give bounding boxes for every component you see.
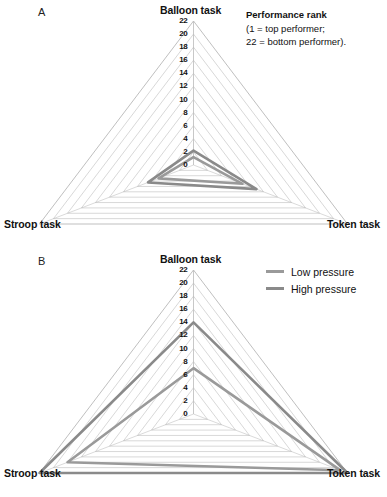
tick-label-20: 20 (172, 278, 188, 287)
annotation-title: Performance rank (246, 8, 346, 22)
tick-label-16: 16 (172, 304, 188, 313)
legend-label-low-pressure: Low pressure (291, 266, 354, 278)
tick-label-22: 22 (172, 16, 188, 25)
panel-b: B Balloon task Stroop task Token task 22… (0, 249, 387, 497)
axis-label-token-task-b: Token task (327, 467, 380, 479)
tick-label-0: 0 (172, 409, 188, 418)
tick-label-4: 4 (172, 134, 188, 143)
axis-label-token-task-a: Token task (327, 218, 380, 230)
axis-label-stroop-task-b: Stroop task (4, 467, 61, 479)
performance-rank-annotation: Performance rank (1 = top performer; 22 … (246, 8, 346, 49)
axis-label-balloon-task-a: Balloon task (160, 4, 221, 16)
tick-label-16: 16 (172, 55, 188, 64)
tick-label-0: 0 (172, 160, 188, 169)
tick-label-12: 12 (172, 330, 188, 339)
tick-label-14: 14 (172, 68, 188, 77)
tick-label-10: 10 (172, 95, 188, 104)
tick-label-14: 14 (172, 317, 188, 326)
tick-label-8: 8 (172, 357, 188, 366)
tick-label-2: 2 (172, 147, 188, 156)
tick-label-6: 6 (172, 370, 188, 379)
legend-swatch-high-pressure (266, 287, 284, 290)
tick-label-22: 22 (172, 265, 188, 274)
panel-a: A Balloon task Stroop task Token task 22… (0, 0, 387, 248)
tick-label-18: 18 (172, 291, 188, 300)
axis-label-stroop-task-a: Stroop task (4, 218, 61, 230)
tick-label-8: 8 (172, 108, 188, 117)
annotation-line-1: (1 = top performer; (246, 22, 346, 36)
tick-label-6: 6 (172, 121, 188, 130)
tick-label-18: 18 (172, 42, 188, 51)
legend-item-low-pressure: Low pressure (266, 263, 356, 280)
legend-swatch-low-pressure (266, 270, 284, 273)
legend-item-high-pressure: High pressure (266, 280, 356, 297)
tick-label-4: 4 (172, 383, 188, 392)
tick-label-12: 12 (172, 81, 188, 90)
annotation-line-2: 22 = bottom performer). (246, 35, 346, 49)
tick-label-20: 20 (172, 29, 188, 38)
tick-label-2: 2 (172, 396, 188, 405)
tick-label-10: 10 (172, 344, 188, 353)
legend: Low pressure High pressure (266, 263, 356, 297)
axis-label-balloon-task-b: Balloon task (160, 253, 221, 265)
legend-label-high-pressure: High pressure (291, 283, 356, 295)
